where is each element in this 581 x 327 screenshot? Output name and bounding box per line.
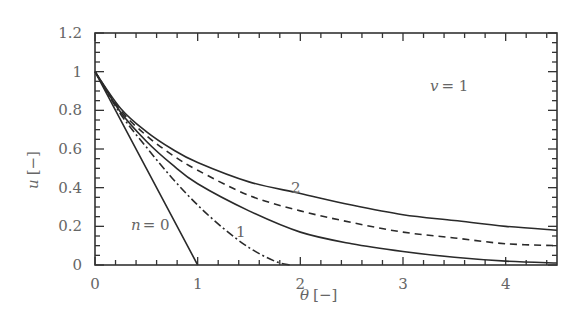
curve-n=0: [95, 72, 198, 265]
x-tick-label: 0: [90, 275, 100, 293]
x-tick-label: 4: [501, 275, 511, 293]
v-annotation: v= 1: [430, 77, 468, 95]
curve2-annotation: 2: [291, 179, 301, 197]
y-tick-label: 0.4: [58, 179, 82, 197]
y-tick-labels: 00.20.40.60.811.2: [58, 24, 82, 274]
x-axis-label: θ[−]: [300, 286, 337, 304]
curve-n=2: [95, 72, 557, 231]
curve-n=0.5: [95, 72, 290, 265]
y-tick-label: 0.6: [58, 140, 82, 158]
x-tick-label: 3: [398, 275, 408, 293]
line-chart: 00.20.40.60.811.2 01234 θ[−] u[−] v= 1 n…: [0, 0, 581, 327]
y-tick-label: 1.2: [58, 24, 82, 42]
y-tick-label: 0.2: [58, 217, 82, 235]
y-axis-label: u[−]: [24, 151, 42, 189]
y-tick-label: 0.8: [58, 101, 82, 119]
data-curves: [95, 72, 557, 265]
y-tick-label: 1: [72, 63, 82, 81]
n0-annotation: n= 0: [131, 216, 170, 234]
curve1-annotation: 1: [236, 223, 246, 241]
curve-n=1: [95, 72, 557, 263]
x-tick-label: 1: [193, 275, 203, 293]
y-tick-label: 0: [72, 256, 82, 274]
